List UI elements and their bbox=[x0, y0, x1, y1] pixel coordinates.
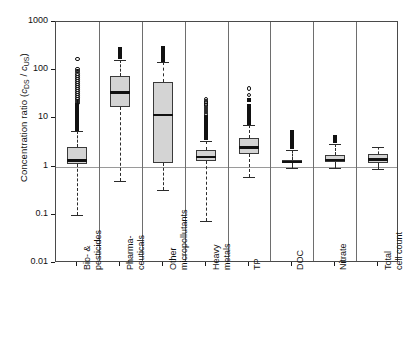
outlier-cluster bbox=[290, 130, 294, 133]
x-axis-category-line: pesticides bbox=[93, 230, 104, 270]
upper-whisker bbox=[120, 60, 121, 77]
x-axis-category-line: cell count bbox=[393, 232, 404, 270]
boxplot-1[interactable] bbox=[56, 22, 99, 261]
outlier-point bbox=[247, 86, 251, 90]
outlier-cluster bbox=[290, 135, 294, 138]
x-axis-category-label: Nitrate bbox=[338, 243, 349, 270]
lower-whisker bbox=[249, 154, 250, 177]
x-axis-category-label: DOC bbox=[295, 250, 306, 270]
x-tick-mark bbox=[205, 262, 206, 266]
y-axis-label-c1: c bbox=[18, 89, 29, 94]
x-axis-category-line: Heavy bbox=[211, 243, 222, 270]
lower-whisker-cap bbox=[243, 177, 255, 178]
median-line bbox=[239, 146, 259, 149]
lower-whisker-cap bbox=[200, 221, 212, 222]
y-tick-label: 0.01 bbox=[12, 257, 48, 266]
x-tick-mark bbox=[291, 262, 292, 266]
upper-whisker-cap bbox=[372, 147, 384, 148]
x-axis-category-label: TP bbox=[252, 258, 263, 270]
x-tick-mark bbox=[248, 262, 249, 266]
lower-whisker-cap bbox=[372, 169, 384, 170]
y-axis-label-sub1: DS bbox=[23, 79, 30, 89]
outlier-cluster bbox=[290, 133, 294, 136]
upper-whisker-cap bbox=[329, 144, 341, 145]
boxplot-6[interactable] bbox=[270, 22, 313, 261]
x-axis-category-line: Nitrate bbox=[338, 243, 349, 270]
upper-whisker bbox=[163, 62, 164, 81]
outlier-point bbox=[247, 93, 251, 97]
y-tick-label: 1000 bbox=[12, 16, 48, 25]
x-tick-mark bbox=[377, 262, 378, 266]
median-line bbox=[282, 161, 302, 164]
y-tick-label: 10 bbox=[12, 112, 48, 121]
outlier-cluster bbox=[333, 135, 337, 138]
lower-whisker-cap bbox=[286, 168, 298, 169]
upper-whisker-cap bbox=[157, 62, 169, 63]
lower-whisker-cap bbox=[114, 181, 126, 182]
outlier-cluster bbox=[161, 46, 165, 49]
upper-whisker bbox=[292, 150, 293, 160]
y-tick-label: 100 bbox=[12, 64, 48, 73]
x-axis-category-line: Pharma- bbox=[125, 235, 136, 270]
x-axis-category-line: Total bbox=[383, 232, 394, 270]
median-line bbox=[110, 91, 130, 94]
outlier-point bbox=[75, 57, 79, 61]
y-tick-mark bbox=[51, 262, 55, 263]
x-tick-mark bbox=[162, 262, 163, 266]
x-axis-category-label: Pharma-ceuticals bbox=[125, 235, 146, 270]
x-axis-category-line: ceuticals bbox=[136, 235, 147, 270]
outlier-cluster bbox=[290, 138, 294, 141]
upper-whisker bbox=[77, 131, 78, 147]
outlier-cluster bbox=[247, 104, 251, 107]
x-axis-category-line: Other bbox=[168, 209, 179, 270]
x-axis-category-label: Bio- &pesticides bbox=[82, 230, 103, 270]
boxplot-4[interactable] bbox=[185, 22, 228, 261]
x-axis-category-line: micropollutants bbox=[179, 209, 190, 270]
lower-whisker bbox=[206, 161, 207, 221]
upper-whisker-cap bbox=[71, 131, 83, 132]
x-axis-category-line: Bio- & bbox=[82, 230, 93, 270]
lower-whisker-cap bbox=[329, 168, 341, 169]
outlier-cluster bbox=[290, 143, 294, 146]
x-axis-category-label: Othermicropollutants bbox=[168, 209, 189, 270]
lower-whisker bbox=[120, 107, 121, 181]
x-axis-category-line: metals bbox=[222, 243, 233, 270]
lower-whisker-cap bbox=[157, 190, 169, 191]
x-tick-mark bbox=[334, 262, 335, 266]
x-axis-category-label: Totalcell count bbox=[383, 232, 404, 270]
median-line bbox=[368, 158, 388, 161]
x-tick-mark bbox=[119, 262, 120, 266]
boxplot-5[interactable] bbox=[228, 22, 271, 261]
upper-whisker bbox=[206, 141, 207, 150]
boxplot-8[interactable] bbox=[356, 22, 399, 261]
median-line bbox=[325, 159, 345, 162]
outlier-cluster bbox=[247, 98, 251, 101]
upper-whisker-cap bbox=[200, 141, 212, 142]
x-axis-category-label: Heavymetals bbox=[211, 243, 232, 270]
plot-area bbox=[55, 21, 398, 262]
upper-whisker bbox=[378, 147, 379, 155]
lower-whisker bbox=[77, 164, 78, 215]
y-tick-label: 0.1 bbox=[12, 209, 48, 218]
x-axis-category-line: TP bbox=[252, 258, 263, 270]
upper-whisker bbox=[335, 144, 336, 156]
boxplot-figure: Concentration ratio (cDS / cUS) 10001001… bbox=[0, 0, 409, 345]
y-tick-label: 1 bbox=[12, 161, 48, 170]
median-line bbox=[196, 156, 216, 159]
upper-whisker bbox=[249, 125, 250, 137]
x-tick-mark bbox=[76, 262, 77, 266]
boxplot-7[interactable] bbox=[313, 22, 356, 261]
outlier-point bbox=[75, 67, 79, 71]
boxplot-2[interactable] bbox=[99, 22, 142, 261]
x-axis-category-line: DOC bbox=[295, 250, 306, 270]
median-line bbox=[153, 114, 173, 117]
box-iqr[interactable] bbox=[153, 82, 173, 163]
upper-whisker-cap bbox=[286, 150, 298, 151]
y-axis-label-close: ) bbox=[18, 53, 29, 56]
upper-whisker-cap bbox=[114, 60, 126, 61]
lower-whisker bbox=[163, 163, 164, 190]
median-line bbox=[67, 159, 87, 162]
outlier-cluster bbox=[118, 47, 122, 50]
lower-whisker-cap bbox=[71, 215, 83, 216]
upper-whisker-cap bbox=[243, 125, 255, 126]
